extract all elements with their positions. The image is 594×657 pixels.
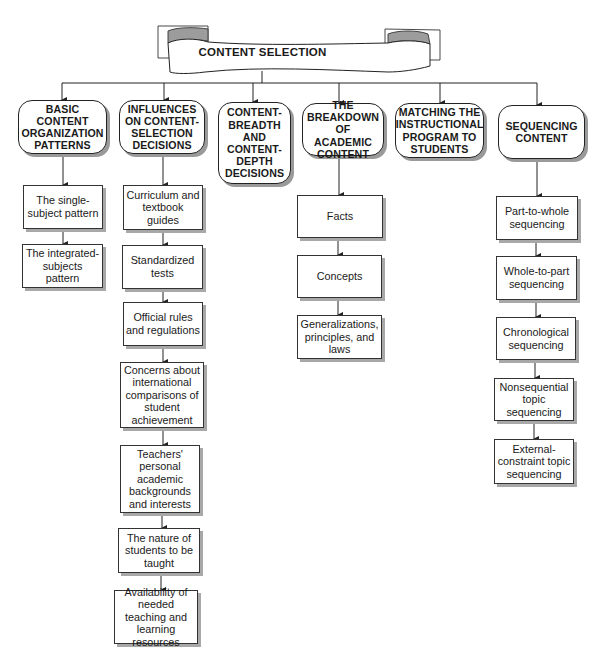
item-nature-of-students: The nature of students to be taught: [118, 528, 200, 573]
item-facts: Facts: [297, 195, 383, 238]
item-standardized-tests: Standardized tests: [122, 245, 203, 289]
item-whole-to-part: Whole-to-part sequencing: [496, 256, 577, 300]
header-content-breadth-depth: CONTENT-BREADTH AND CONTENT-DEPTH DECISI…: [218, 102, 291, 184]
item-single-subject-pattern: The single-subject pattern: [23, 185, 103, 229]
item-international-comparisons: Concerns about international comparisons…: [120, 362, 204, 428]
concept-map: CONTENT SELECTION BASIC CONTENT ORGANIZA…: [0, 0, 594, 657]
item-concepts: Concepts: [297, 255, 382, 298]
item-nonsequential-topic: Nonsequential topic sequencing: [494, 378, 574, 421]
header-breakdown-academic-content: THE BREAKDOWN OF ACADEMIC CONTENT: [302, 103, 384, 156]
header-sequencing-content: SEQUENCING CONTENT: [498, 105, 585, 159]
item-curriculum-textbook-guides: Curriculum and textbook guides: [123, 185, 203, 230]
item-part-to-whole: Part-to-whole sequencing: [496, 196, 578, 240]
item-external-constraint-topic: External-constraint topic sequencing: [494, 439, 574, 484]
header-matching-instructional-program: MATCHING THE INSTRUCTIONAL PROGRAM TO ST…: [395, 103, 484, 158]
header-influences-content-selection: INFLUENCES ON CONTENT-SELECTION DECISION…: [119, 100, 205, 154]
item-teaching-learning-resources: Availability of needed teaching and lear…: [114, 590, 198, 644]
item-teachers-backgrounds: Teachers' personal academic backgrounds …: [120, 445, 200, 513]
diagram-title: CONTENT SELECTION: [170, 46, 355, 58]
item-chronological: Chronological sequencing: [496, 317, 576, 360]
item-official-rules-regulations: Official rules and regulations: [123, 302, 203, 346]
item-integrated-subjects-pattern: The integrated-subjects pattern: [22, 244, 103, 288]
item-generalizations: Generalizations, principles, and laws: [297, 315, 382, 359]
header-basic-content-organization: BASIC CONTENT ORGANIZATION PATTERNS: [18, 100, 107, 154]
